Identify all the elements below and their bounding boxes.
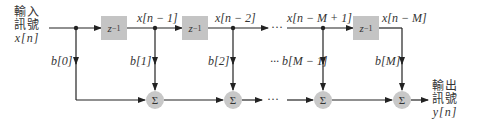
input-label: 輸入 訊號 x[n]	[14, 6, 40, 45]
coef-0: b[0]	[51, 55, 72, 67]
coef-m-1: ··· b[M − 1]	[270, 55, 327, 67]
output-signal: y[n]	[432, 106, 458, 119]
coef-2: b[2]	[208, 55, 229, 67]
tap-signal-2: x[n − 2]	[215, 12, 256, 24]
coef-1: b[1]	[130, 55, 151, 67]
ellipsis-top: ···	[271, 20, 283, 35]
delay-exp: −1	[364, 24, 373, 33]
delay-block-1: z−1	[101, 16, 127, 40]
delay-exp: −1	[193, 24, 202, 33]
output-label: 輸出 訊號 y[n]	[432, 80, 458, 119]
tap-signal-1: x[n − 1]	[137, 12, 178, 24]
sum-node-m: Σ	[393, 91, 411, 109]
coef-m: b[M]	[375, 55, 400, 67]
ellipsis-mid: ···	[270, 54, 279, 68]
ellipsis-bottom: ···	[267, 92, 279, 107]
sum-node-1: Σ	[146, 91, 164, 109]
delay-exp: −1	[112, 24, 121, 33]
tap-signal-m-1: x[n − M + 1]	[287, 12, 352, 24]
input-signal: x[n]	[14, 32, 40, 45]
delay-block-2: z−1	[182, 16, 208, 40]
sum-node-m-1: Σ	[314, 91, 332, 109]
sum-node-2: Σ	[224, 91, 242, 109]
tap-signal-m: x[n − M]	[382, 12, 427, 24]
delay-block-m: z−1	[353, 16, 379, 40]
coef-m-1-text: b[M − 1]	[282, 54, 327, 68]
